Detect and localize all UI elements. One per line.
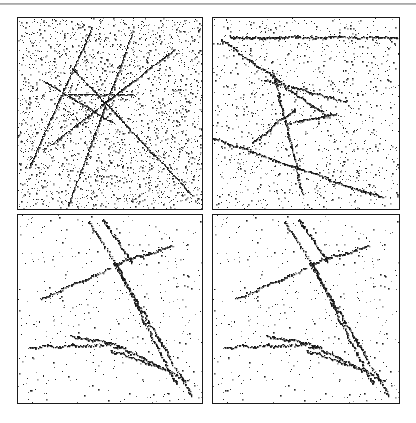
horizontal-rule — [0, 3, 416, 5]
scatter-canvas-top-right — [213, 18, 399, 209]
scatter-canvas-bottom-left — [18, 215, 202, 403]
scatter-canvas-top-left — [18, 18, 202, 209]
figure-root — [0, 0, 416, 423]
scatter-panel-bottom-right — [212, 214, 400, 404]
scatter-panel-top-right — [212, 17, 400, 210]
scatter-canvas-bottom-right — [213, 215, 399, 403]
scatter-panel-bottom-left — [17, 214, 203, 404]
scatter-panel-top-left — [17, 17, 203, 210]
